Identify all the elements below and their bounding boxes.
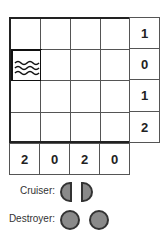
grid-cell-r1-c3[interactable] bbox=[101, 50, 129, 81]
destroyer-ship-icon bbox=[89, 210, 109, 230]
grid-cell-r0-c3[interactable] bbox=[101, 19, 129, 50]
row-clue-3: 2 bbox=[129, 111, 160, 143]
grid-cell-r2-c1[interactable] bbox=[41, 81, 71, 113]
row-clue-0: 1 bbox=[129, 17, 160, 49]
grid-cell-r2-c3[interactable] bbox=[101, 81, 129, 113]
cruiser-label: Cruiser: bbox=[0, 185, 55, 196]
grid-cell-r3-c1[interactable] bbox=[41, 113, 71, 141]
destroyer-label: Destroyer: bbox=[0, 213, 55, 224]
col-clue-1: 0 bbox=[39, 143, 70, 175]
grid-cell-r0-c2[interactable] bbox=[71, 19, 101, 50]
grid-cell-r1-c1[interactable] bbox=[41, 50, 71, 81]
grid-cell-r1-c2[interactable] bbox=[71, 50, 101, 81]
grid-cell-r2-c0[interactable] bbox=[11, 81, 41, 113]
destroyer-ship-icon bbox=[60, 210, 80, 230]
grid-cell-r0-c0[interactable] bbox=[11, 19, 41, 50]
grid-cell-r2-c2[interactable] bbox=[71, 81, 101, 113]
row-clue-2: 1 bbox=[129, 79, 160, 112]
grid-cell-r3-c3[interactable] bbox=[101, 113, 129, 141]
cruiser-left-end-icon bbox=[60, 182, 72, 202]
col-clue-2: 2 bbox=[69, 143, 100, 175]
cruiser-right-end-icon bbox=[81, 182, 93, 202]
grid-cell-r3-c2[interactable] bbox=[71, 113, 101, 141]
water-icon bbox=[13, 51, 40, 80]
col-clue-3: 0 bbox=[99, 143, 130, 175]
grid-cell-r0-c1[interactable] bbox=[41, 19, 71, 50]
puzzle-grid bbox=[9, 17, 129, 143]
row-clue-1: 0 bbox=[129, 48, 160, 80]
grid-cell-r1-c0-water bbox=[11, 49, 42, 82]
grid-cell-r3-c0[interactable] bbox=[11, 113, 41, 141]
col-clue-0: 2 bbox=[9, 143, 40, 175]
